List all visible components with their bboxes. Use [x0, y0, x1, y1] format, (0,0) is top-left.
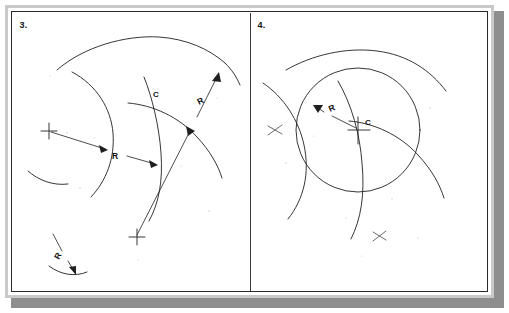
center-label-c-panel-3: C: [153, 90, 159, 99]
radius-label-upper-right: R: [195, 95, 205, 107]
panel-3: 3.: [13, 13, 250, 291]
given-arc-inner: [128, 103, 222, 178]
panel-4-drawing: C R: [250, 13, 487, 291]
radius-label-small-arc: R: [51, 250, 63, 260]
panel-4-number-label: 4.: [258, 20, 266, 30]
center-label-c-panel-4: C: [365, 118, 371, 127]
radius-label-lower-left: R: [112, 151, 118, 161]
dimension-radius-upper-right: R: [129, 72, 221, 245]
center-mark-left: [41, 123, 57, 139]
given-arc-left: [28, 171, 68, 184]
radius-label-panel-4: R: [326, 102, 336, 114]
center-mark-lower-free: [373, 231, 386, 241]
small-given-arc: [49, 266, 87, 275]
given-arc-upper-tail: [225, 63, 240, 85]
page-root: 3.: [0, 0, 509, 313]
panel-3-number-label: 3.: [20, 20, 28, 30]
given-arc-upper: [57, 36, 225, 69]
given-arc-upper: [286, 49, 446, 90]
panel-3-drawing: R R: [13, 13, 250, 291]
construction-arc-left: [72, 72, 113, 197]
center-mark-left-free: [268, 125, 282, 135]
center-mark-bottom: [129, 229, 145, 245]
small-arc-with-radius: R: [49, 234, 87, 275]
given-arc-lower: [338, 81, 363, 239]
dimension-radius-lower-left: R: [41, 123, 158, 168]
panels-container: 3.: [13, 13, 487, 291]
panel-4: 4.: [250, 13, 487, 291]
